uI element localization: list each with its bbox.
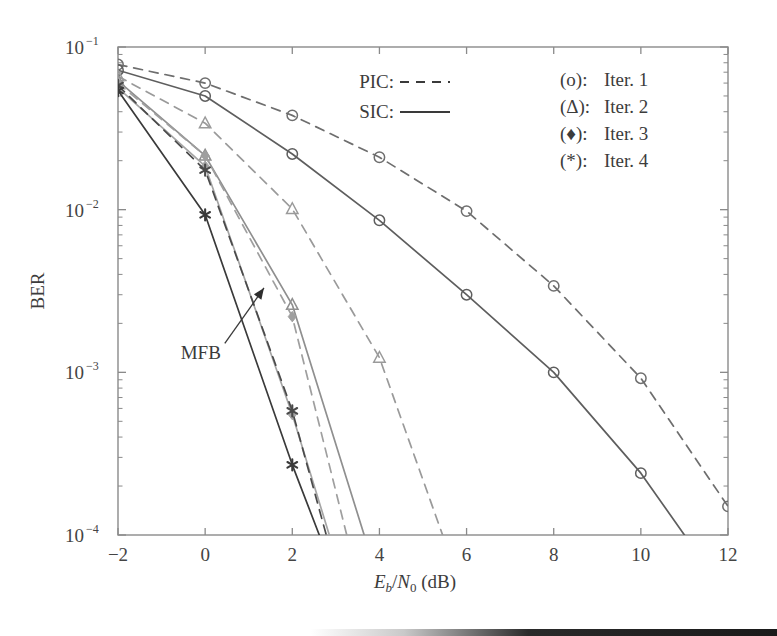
svg-text:−2: −2	[86, 197, 99, 211]
svg-text:−4: −4	[86, 522, 99, 536]
legend-style-label-dashed: PIC:	[359, 71, 394, 92]
legend-marker-symbol-o: (o):	[560, 69, 587, 91]
svg-text:−1: −1	[86, 34, 99, 48]
ber-chart-svg: −202468101210−110−210−310−4 MFB BEREb/N0…	[0, 0, 777, 636]
legend-marker-symbol-star: (*):	[560, 150, 587, 172]
x-tick-label: 8	[549, 544, 559, 565]
y-axis-title: BER	[27, 272, 48, 309]
x-tick-label: 10	[631, 544, 650, 565]
legend-marker-label-iter-1: Iter. 1	[604, 69, 648, 90]
x-tick-label: 4	[375, 544, 385, 565]
x-tick-label: 6	[462, 544, 472, 565]
figure-background	[0, 0, 777, 636]
svg-text:10: 10	[65, 525, 84, 546]
legend-marker-label-iter-2: Iter. 2	[604, 96, 648, 117]
x-tick-label: 0	[200, 544, 210, 565]
x-tick-label: 12	[719, 544, 738, 565]
svg-text:−3: −3	[86, 359, 99, 373]
mfb-annotation-label: MFB	[181, 342, 221, 363]
svg-text:10: 10	[65, 37, 84, 58]
x-tick-label: 2	[288, 544, 298, 565]
page-edge-band	[0, 629, 777, 636]
ber-figure: −202468101210−110−210−310−4 MFB BEREb/N0…	[0, 0, 777, 636]
svg-text:10: 10	[65, 200, 84, 221]
legend-marker-label-iter-4: Iter. 4	[604, 150, 649, 171]
legend-style-label-solid: SIC:	[359, 101, 394, 122]
svg-text:10: 10	[65, 362, 84, 383]
x-tick-label: −2	[108, 544, 128, 565]
legend-marker-symbol-diamond: (♦):	[560, 123, 588, 145]
legend-marker-symbol-triangle: (Δ):	[560, 96, 590, 118]
legend-marker-label-iter-3: Iter. 3	[604, 123, 648, 144]
